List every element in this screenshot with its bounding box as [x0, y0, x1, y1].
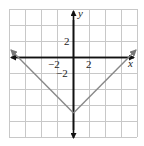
- y-tick-label-neg2: −2: [56, 67, 68, 79]
- curve-right-arm: [74, 50, 137, 113]
- coordinate-plane: y x 2 −2 2 −2: [0, 0, 144, 146]
- curve-left-arm: [11, 50, 74, 113]
- graph-plot: y x 2 −2 2 −2: [0, 0, 144, 146]
- y-axis-label: y: [77, 7, 83, 19]
- x-axis-label: x: [127, 57, 133, 69]
- x-tick-label-2: 2: [86, 58, 92, 70]
- y-tick-label-2: 2: [64, 35, 70, 47]
